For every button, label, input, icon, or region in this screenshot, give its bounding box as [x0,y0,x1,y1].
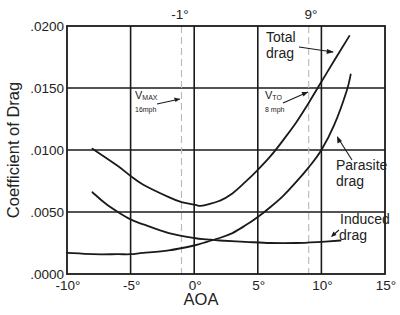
parasite-drag-label-line1: Parasite [336,157,388,173]
x-axis-ticks: -10°-5°0°5°10°15° [56,278,397,293]
parasite-drag-annotation: Parasite drag [336,136,388,189]
y-tick-label: .0200 [30,19,64,34]
induced-drag-label-line2: drag [339,227,367,243]
vto-speed: 8 mph [265,106,285,114]
x-tick-label: 5° [252,278,265,293]
drag-curves [67,36,351,254]
induced-drag-curve [92,192,340,243]
x-axis-title: AOA [184,290,219,308]
x-tick-label: 15° [376,278,396,293]
drag-coefficient-chart: -10°-5°0°5°10°15° .0000.0050.0100.0150.0… [0,0,400,315]
y-tick-label: .0000 [30,267,64,282]
vmax-speed: 16mph [135,106,157,114]
y-tick-label: .0150 [30,81,64,96]
total-drag-label-line2: drag [266,45,294,61]
vmax-annotation: VMAX 16mph [135,89,180,114]
vto-label: VTO [265,89,282,101]
y-axis-title: Coefficient of Drag [4,82,22,218]
ref-line-label-vto: 9° [305,7,318,22]
total-drag-label-line1: Total [266,29,296,45]
vto-annotation: VTO 8 mph [265,89,308,114]
induced-drag-annotation: Induced drag [331,211,390,243]
vmax-label: VMAX [135,89,158,101]
grid-lines [67,26,385,274]
induced-drag-label-line1: Induced [340,211,390,227]
y-tick-label: .0100 [30,143,64,158]
parasite-drag-label-line2: drag [336,173,364,189]
x-tick-label: 10° [312,278,332,293]
x-tick-label: -5° [123,278,140,293]
y-axis-ticks: .0000.0050.0100.0150.0200 [30,19,64,282]
ref-line-label-vmax: -1° [171,7,188,22]
y-tick-label: .0050 [30,205,64,220]
total-drag-annotation: Total drag [266,29,334,61]
